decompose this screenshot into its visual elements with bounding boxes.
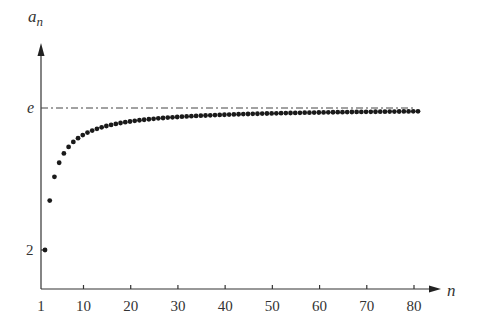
data-point [269, 111, 274, 116]
data-point [213, 113, 218, 118]
data-point [217, 113, 222, 118]
data-point [47, 198, 52, 203]
x-tick-labels: 11020304050607080 [37, 298, 421, 314]
data-point [312, 110, 317, 115]
data-point [170, 115, 175, 120]
y-tick-label-2: 2 [26, 242, 34, 258]
data-point [146, 117, 151, 122]
x-tick-label: 1 [37, 298, 45, 314]
x-axis-label: n [447, 281, 456, 300]
data-point [61, 151, 66, 156]
data-point [364, 109, 369, 114]
data-point [57, 160, 62, 165]
data-point [331, 110, 336, 115]
data-point [132, 118, 137, 123]
data-point [401, 109, 406, 114]
data-point [302, 110, 307, 115]
data-point [208, 113, 213, 118]
data-point [349, 110, 354, 115]
data-point [316, 110, 321, 115]
x-tick-label: 80 [407, 298, 422, 314]
data-point [354, 110, 359, 115]
x-tick-label: 70 [359, 298, 374, 314]
data-point [71, 140, 76, 145]
data-point [109, 122, 114, 127]
x-tick-label: 50 [265, 298, 280, 314]
data-point [80, 133, 85, 138]
data-point [52, 174, 57, 179]
data-point [345, 110, 350, 115]
data-point [175, 115, 180, 120]
data-point [260, 111, 265, 116]
data-point [335, 110, 340, 115]
asymptote-label: e [27, 99, 34, 116]
data-point [128, 119, 133, 124]
data-point [184, 114, 189, 119]
data-point [241, 112, 246, 117]
data-point [151, 116, 156, 121]
x-tick-label: 60 [312, 298, 327, 314]
data-point [279, 111, 284, 116]
data-point [411, 109, 416, 114]
x-tick-label: 30 [170, 298, 185, 314]
data-point [123, 120, 128, 125]
data-point [231, 112, 236, 117]
data-point [340, 110, 345, 115]
data-point [43, 248, 48, 253]
data-point [378, 109, 383, 114]
data-point [250, 111, 255, 116]
data-point [283, 111, 288, 116]
data-point [76, 136, 81, 141]
data-point [321, 110, 326, 115]
data-point [222, 112, 227, 117]
data-point [236, 112, 241, 117]
data-point [288, 111, 293, 116]
data-point [246, 112, 251, 117]
data-point [293, 110, 298, 115]
data-point [142, 117, 147, 122]
data-point [397, 109, 402, 114]
data-point [85, 130, 90, 135]
data-point [161, 116, 166, 121]
data-point [298, 110, 303, 115]
data-point [368, 109, 373, 114]
data-point [416, 109, 421, 114]
data-point [406, 109, 411, 114]
data-point [137, 118, 142, 123]
data-point [227, 112, 232, 117]
data-point [189, 114, 194, 119]
data-point [165, 115, 170, 120]
data-point [203, 113, 208, 118]
data-point [99, 125, 104, 130]
data-point [198, 113, 203, 118]
data-point [274, 111, 279, 116]
data-point [326, 110, 331, 115]
data-point [387, 109, 392, 114]
data-point [383, 109, 388, 114]
data-point [359, 109, 364, 114]
data-point [95, 126, 100, 131]
data-point [255, 111, 260, 116]
data-point [104, 124, 109, 129]
data-point [392, 109, 397, 114]
x-tick-label: 10 [76, 298, 91, 314]
sequence-chart: an n e 2 11020304050607080 [0, 0, 478, 334]
data-point [90, 128, 95, 133]
data-point [194, 114, 199, 119]
x-tick-label: 40 [218, 298, 233, 314]
data-point [265, 111, 270, 116]
data-point [373, 109, 378, 114]
data-point [307, 110, 312, 115]
data-point [118, 121, 123, 126]
axes [38, 43, 442, 293]
data-point [113, 121, 118, 126]
y-axis-label: an [28, 7, 43, 29]
data-points [43, 109, 421, 252]
data-point [156, 116, 161, 121]
data-point [66, 144, 71, 149]
data-point [180, 114, 185, 119]
x-tick-label: 20 [123, 298, 138, 314]
